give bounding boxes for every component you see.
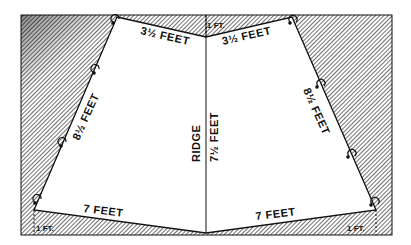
label-bottom-right-offset: 1 FT. bbox=[347, 224, 365, 233]
label-ridge: RIDGE bbox=[190, 125, 202, 162]
label-bottom-left-offset: 1 FT. bbox=[36, 224, 54, 233]
tent-pattern-diagram: 3½ FEET 3½ FEET 8½ FEET 8½ FEET 7 FEET 7… bbox=[0, 0, 411, 245]
label-top-offset: 1 FT. bbox=[207, 21, 225, 30]
label-ridge-length: 7½ FEET bbox=[208, 112, 220, 162]
